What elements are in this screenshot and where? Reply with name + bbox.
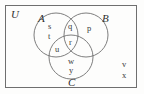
element-u: u <box>55 45 59 54</box>
element-r: r <box>69 38 72 47</box>
element-x-outside: x <box>122 71 126 80</box>
set-label-C: C <box>68 77 75 88</box>
universal-set-label: U <box>11 9 19 20</box>
set-label-B: B <box>102 13 109 24</box>
element-y: y <box>69 66 73 75</box>
element-t: t <box>48 32 50 41</box>
set-label-A: A <box>38 13 45 24</box>
element-p: p <box>87 24 91 33</box>
element-s: s <box>48 22 51 31</box>
venn-diagram-figure: U A B C s t q p u r w y v x <box>0 0 144 94</box>
element-v-outside: v <box>122 60 126 69</box>
element-q: q <box>68 22 72 31</box>
